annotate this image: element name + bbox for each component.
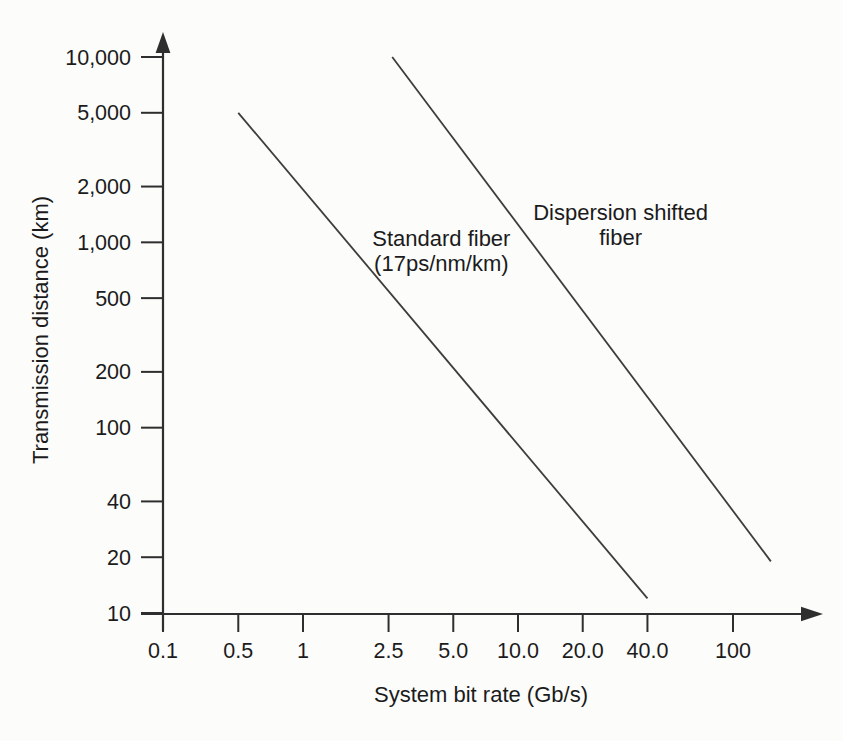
standard-fiber-17ps-nm-km-line <box>238 113 647 599</box>
y-tick-label: 200 <box>95 360 131 384</box>
x-tick-label: 20.0 <box>562 639 604 663</box>
chart-figure: 0.10.512.55.010.020.040.010010,0005,0002… <box>0 0 843 741</box>
y-tick-label: 10,000 <box>65 46 131 70</box>
y-tick-label: 100 <box>95 416 131 440</box>
x-axis-arrowhead-icon <box>801 607 823 621</box>
fiber-dispersion-limit-chart: 0.10.512.55.010.020.040.010010,0005,0002… <box>0 0 843 741</box>
y-tick-label: 40 <box>107 490 131 514</box>
y-tick-label: 2,000 <box>77 175 131 199</box>
x-tick-label: 2.5 <box>374 639 404 663</box>
x-tick-label: 10.0 <box>497 639 539 663</box>
x-tick-label: 40.0 <box>627 639 669 663</box>
dispersion-shifted-fiber-label: Dispersion shifted <box>533 200 708 225</box>
dispersion-shifted-fiber-line <box>392 57 771 561</box>
x-tick-label: 0.1 <box>148 639 178 663</box>
y-tick-label: 500 <box>95 287 131 311</box>
x-axis-title: System bit rate (Gb/s) <box>374 682 588 707</box>
y-tick-label: 1,000 <box>77 231 131 255</box>
standard-fiber-17ps-nm-km-label: (17ps/nm/km) <box>374 251 508 276</box>
y-tick-label: 10 <box>107 602 131 626</box>
standard-fiber-17ps-nm-km-label: Standard fiber <box>372 226 510 251</box>
y-axis-arrowhead-icon <box>156 32 171 53</box>
x-tick-label: 100 <box>715 639 751 663</box>
x-tick-label: 5.0 <box>438 639 468 663</box>
y-tick-label: 5,000 <box>77 101 131 125</box>
x-tick-label: 1 <box>297 639 309 663</box>
y-axis-title: Transmission distance (km) <box>28 196 53 464</box>
dispersion-shifted-fiber-label: fiber <box>599 225 642 250</box>
x-tick-label: 0.5 <box>223 639 253 663</box>
y-tick-label: 20 <box>107 546 131 570</box>
chart-generated-layer: 0.10.512.55.010.020.040.010010,0005,0002… <box>65 32 823 663</box>
